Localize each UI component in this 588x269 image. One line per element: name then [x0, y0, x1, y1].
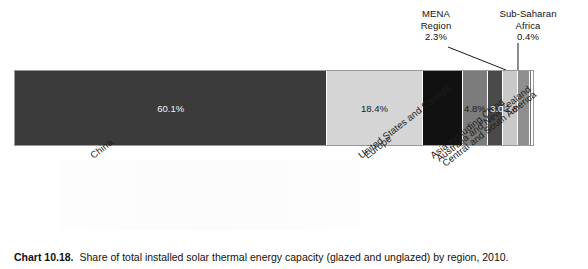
segment-value-china: 60.1%: [157, 103, 184, 114]
segment-china[interactable]: 60.1%: [15, 71, 326, 145]
caption-number: Chart 10.18.: [14, 251, 74, 263]
callout-ssa-line2: Africa: [516, 20, 541, 31]
callout-mena-percent: 2.3%: [402, 31, 470, 43]
chart-figure: MENA Region 2.3% Sub-Saharan Africa 0.4%…: [0, 0, 588, 269]
callout-mena-region: MENA Region 2.3%: [402, 8, 470, 43]
callout-ssa-percent: 0.4%: [486, 31, 570, 43]
segment-value-europe: 18.4%: [361, 103, 388, 114]
segment-value-central-and-south-america: 2.8: [505, 103, 518, 114]
callout-sub-saharan-africa: Sub-Saharan Africa 0.4%: [486, 8, 570, 43]
segment-value-australia-and-new-zealand: 3.0: [490, 103, 503, 114]
segment-europe[interactable]: 18.4%: [326, 71, 421, 145]
segment-sub-saharan-africa[interactable]: 0.4%: [529, 71, 531, 145]
segment-value-asia-excluding-china: 4.8%: [464, 103, 486, 114]
callout-mena-line1: MENA: [422, 8, 450, 19]
chart-caption: Chart 10.18.Share of total installed sol…: [14, 251, 580, 264]
background-watermark: [60, 160, 360, 230]
caption-text: Share of total installed solar thermal e…: [80, 251, 509, 263]
segment-central-and-south-america[interactable]: 2.8: [502, 71, 517, 145]
callout-mena-line2: Region: [421, 20, 452, 31]
callout-ssa-line1: Sub-Saharan: [499, 8, 556, 19]
